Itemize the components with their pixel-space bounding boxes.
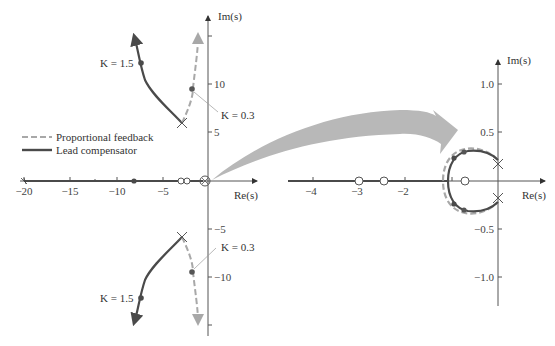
legend-label-proportional: Proportional feedback xyxy=(56,131,154,143)
right-y-tick-label: −0.5 xyxy=(474,223,494,235)
left-y-tick-label: −10 xyxy=(214,271,232,283)
lead-locus-upper xyxy=(135,39,182,123)
right-y-tick-label: 0.5 xyxy=(480,126,494,138)
k-marker-dot xyxy=(189,269,195,275)
k-annotation: K = 0.3 xyxy=(221,241,255,253)
k-annotation: K = 1.5 xyxy=(100,292,134,304)
zero-o-icon xyxy=(355,177,363,185)
left-y-tick-label: 5 xyxy=(214,126,220,138)
left-im-axis-label: Im(s) xyxy=(218,10,242,23)
left-y-tick-label: −5 xyxy=(214,223,226,235)
k-marker-dot xyxy=(451,155,456,160)
zero-o-icon xyxy=(461,177,469,185)
right-x-tick-label: −4 xyxy=(305,185,317,197)
right-x-tick-label: −3 xyxy=(351,185,363,197)
left-re-axis-label: Re(s) xyxy=(234,189,258,202)
left-x-tick-label: −15 xyxy=(61,185,79,197)
lead-locus-lower xyxy=(135,237,182,320)
right-y-tick-label: 1.0 xyxy=(480,78,494,90)
left-x-tick-label: −20 xyxy=(15,185,33,197)
k-annotation: K = 0.3 xyxy=(221,109,255,121)
right-re-axis-label: Re(s) xyxy=(522,189,546,202)
left-x-tick-label: −10 xyxy=(108,185,126,197)
zero-o-icon xyxy=(178,178,184,184)
annotation-leader xyxy=(194,92,218,112)
annotation-leader xyxy=(194,248,216,269)
right-y-tick-label: −1.0 xyxy=(474,271,494,283)
k-marker-dot xyxy=(138,60,144,66)
right-im-axis-label: Im(s) xyxy=(507,54,531,67)
k-marker-dot xyxy=(461,149,466,154)
right-plot: −4 −3 −2 1.0 0.5 −0.5 −1.0 Im(s) Re(s) xyxy=(288,54,546,306)
root-locus-figure: −20 −15 −10 −5 10 5 −5 −10 Im(s) Re(s) xyxy=(0,0,555,346)
k-marker-dot xyxy=(138,295,144,301)
k-annotation: K = 1.5 xyxy=(100,57,134,69)
right-x-tick-label: −2 xyxy=(397,185,409,197)
legend: Proportional feedback Lead compensator xyxy=(22,131,154,156)
legend-label-lead: Lead compensator xyxy=(56,144,137,156)
zero-o-icon xyxy=(184,178,190,184)
k-marker-dot xyxy=(451,201,456,206)
proportional-locus-lower xyxy=(182,237,198,320)
k-marker-dot xyxy=(189,86,195,92)
left-y-tick-label: 10 xyxy=(214,78,226,90)
k-marker-dot xyxy=(131,178,136,183)
proportional-locus-upper xyxy=(182,38,198,123)
left-x-tick-label: −5 xyxy=(157,185,169,197)
zero-o-icon xyxy=(380,177,388,185)
k-marker-dot xyxy=(461,207,466,212)
